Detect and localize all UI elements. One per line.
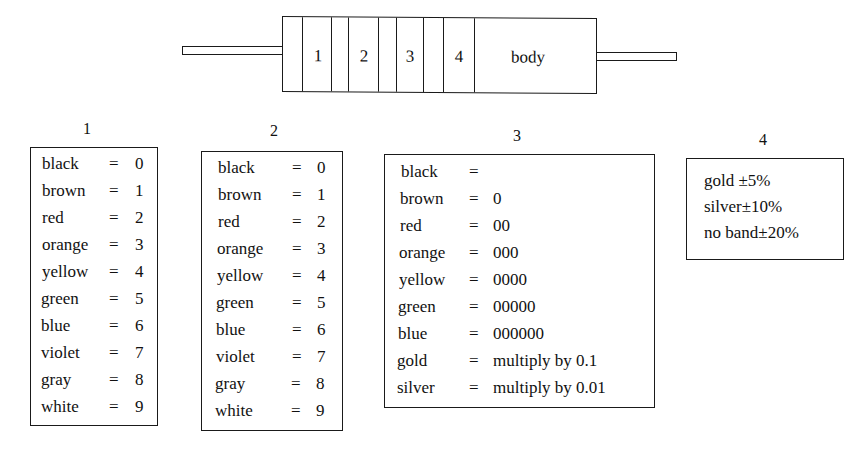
color-name: yellow [42,260,88,284]
body-label: body [511,48,545,65]
tolerance-row: gold ±5% [704,169,770,193]
table-row: orange = 000 [385,241,654,265]
band-label-2: 2 [349,47,379,64]
table-row: gray = 8 [31,368,157,392]
color-name: white [215,399,253,423]
table-row: green = 5 [202,291,342,315]
color-name: orange [399,241,445,265]
color-name: gray [41,368,71,392]
table-row: violet = 7 [202,345,342,369]
table-row: white = 9 [31,395,157,419]
multiplier-value: 000000 [493,322,544,346]
equals-sign: = [469,349,479,373]
digit-value: 3 [135,233,144,257]
table-row: brown = 1 [31,179,157,203]
color-name: gold [397,349,427,373]
color-name: green [41,287,79,311]
table-row: orange = 3 [202,237,342,261]
band-label-3: 3 [395,48,425,65]
equals-sign: = [469,268,479,292]
equals-sign: = [469,241,479,265]
equals-sign: = [469,187,479,211]
color-name: red [218,210,240,234]
color-name: violet [41,341,80,365]
color-name: gray [215,372,245,396]
equals-sign: = [109,179,119,203]
equals-sign: = [469,376,479,400]
digit-value: 7 [317,345,326,369]
table-row: blue = 000000 [385,322,654,346]
digit-value: 0 [317,156,326,180]
multiplier-value: 0000 [493,268,527,292]
table-row: orange = 3 [31,233,157,257]
multiplier-value: multiply by 0.01 [493,376,606,400]
band-label-1: 1 [303,47,333,64]
color-name: green [216,291,254,315]
table-row: red = 2 [31,206,157,230]
color-name: orange [42,233,88,257]
band-3-multiplier-table: black = brown = 0 red = 00 orange = 000 … [384,154,655,408]
left-lead [182,46,284,55]
equals-sign: = [109,368,119,392]
digit-value: 8 [135,368,144,392]
table-row: black = 0 [202,156,342,180]
resistor-body: 1 2 3 4 body [282,16,597,94]
table-row: green = 00000 [385,295,654,319]
digit-value: 8 [316,372,325,396]
digit-value: 6 [317,318,326,342]
equals-sign: = [292,264,302,288]
table-row: violet = 7 [31,341,157,365]
table-row: blue = 6 [31,314,157,338]
equals-sign: = [292,345,302,369]
equals-sign: = [292,210,302,234]
color-name: red [400,214,422,238]
right-lead [594,52,677,61]
color-name: silver [397,376,435,400]
multiplier-value: 000 [493,241,519,265]
color-name: white [41,395,79,419]
equals-sign: = [109,395,119,419]
equals-sign: = [109,287,119,311]
color-name: yellow [399,268,445,292]
table-row: blue = 6 [202,318,342,342]
color-name: brown [400,187,443,211]
table-row: brown = 1 [202,183,342,207]
multiplier-value: 0 [493,187,502,211]
equals-sign: = [469,322,479,346]
color-name: blue [216,318,245,342]
digit-value: 2 [135,206,144,230]
table-row: black = [385,160,654,184]
equals-sign: = [109,233,119,257]
multiplier-value: 00 [493,214,510,238]
color-name: brown [218,183,261,207]
equals-sign: = [469,160,479,184]
table-row: black = 0 [31,152,157,176]
table-row: yellow = 4 [31,260,157,284]
band-4-tolerance-table: gold ±5% silver±10% no band±20% [686,158,844,260]
table-row: red = 00 [385,214,654,238]
equals-sign: = [291,372,301,396]
digit-value: 3 [317,237,326,261]
color-name: black [42,152,79,176]
table-row: yellow = 4 [202,264,342,288]
equals-sign: = [292,318,302,342]
equals-sign: = [469,295,479,319]
digit-value: 5 [135,287,144,311]
table-row: gold = multiply by 0.1 [385,349,654,373]
equals-sign: = [292,237,302,261]
color-name: violet [216,345,255,369]
color-name: orange [217,237,263,261]
digit-value: 6 [135,314,144,338]
tolerance-row: no band±20% [704,221,799,245]
equals-sign: = [291,399,301,423]
color-name: blue [41,314,70,338]
digit-value: 5 [317,291,326,315]
digit-value: 2 [317,210,326,234]
equals-sign: = [292,183,302,207]
table-row: brown = 0 [385,187,654,211]
equals-sign: = [109,206,119,230]
color-name: blue [398,322,427,346]
table-row: green = 5 [31,287,157,311]
color-name: green [398,295,436,319]
color-name: yellow [217,264,263,288]
